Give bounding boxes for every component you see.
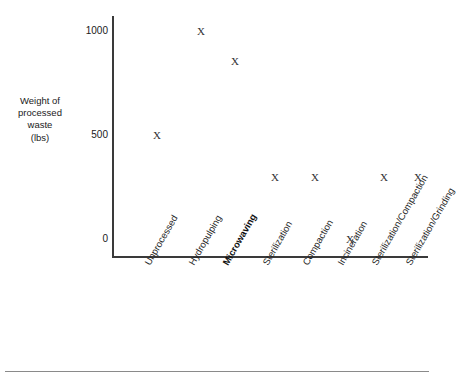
data-point-marker: X	[380, 171, 388, 182]
y-tick-label-0: 0	[66, 234, 108, 244]
bottom-divider	[5, 371, 429, 372]
y-tick-label-1000: 1000	[66, 26, 108, 36]
plot-area: XXXXXXXX	[114, 16, 428, 258]
x-axis-category-labels: UnprocessedHydropulpingMicrowavingSteril…	[0, 256, 436, 366]
data-point-marker: X	[271, 171, 279, 182]
data-point-marker: X	[311, 171, 319, 182]
y-axis-tick-labels: 05001000	[62, 0, 108, 260]
data-point-marker: X	[153, 130, 161, 141]
y-tick-label-500: 500	[66, 130, 108, 140]
data-point-marker: X	[231, 56, 239, 67]
data-point-marker: X	[197, 26, 205, 37]
